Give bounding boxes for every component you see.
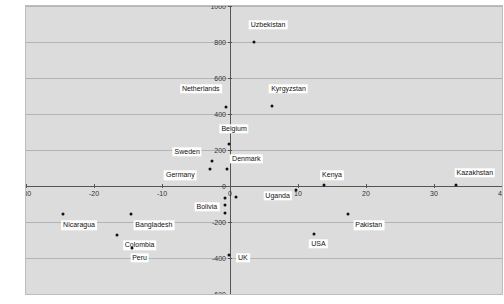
- y-axis-tick-label: 1000: [204, 5, 226, 10]
- data-point: [211, 159, 214, 162]
- data-point: [226, 167, 229, 170]
- y-axis-tick: [228, 186, 232, 187]
- gridline-horizontal: [26, 42, 502, 43]
- y-axis-tick: [228, 42, 232, 43]
- data-point-label: Uganda: [263, 191, 292, 200]
- data-point-label: Kazakhstan: [455, 168, 496, 177]
- y-axis-tick: [228, 6, 232, 7]
- x-axis-tick-label: -30: [25, 190, 31, 197]
- data-point: [62, 212, 65, 215]
- x-axis-tick: [94, 184, 95, 188]
- x-axis-tick-label: 40: [498, 190, 503, 197]
- gridline-horizontal: [26, 258, 502, 259]
- data-point: [130, 212, 133, 215]
- data-point-label: Sweden: [173, 147, 202, 156]
- data-point: [224, 212, 227, 215]
- data-point: [253, 41, 256, 44]
- data-point-label: Bolivia: [195, 202, 220, 211]
- data-point-label: Netherlands: [180, 84, 222, 93]
- x-axis-tick: [502, 184, 503, 188]
- data-point-label: Kenya: [320, 171, 344, 180]
- y-axis-tick: [228, 150, 232, 151]
- x-axis-tick: [162, 184, 163, 188]
- gridline-horizontal: [26, 78, 502, 79]
- data-point: [313, 232, 316, 235]
- y-axis-tick-label: 800: [204, 39, 226, 46]
- y-axis-tick-label: 200: [204, 147, 226, 154]
- x-axis-line: [26, 186, 502, 187]
- y-axis-tick-label: -600: [204, 291, 226, 296]
- y-axis-tick: [228, 114, 232, 115]
- gridline-horizontal: [26, 294, 502, 295]
- x-axis-tick-label: 0: [228, 190, 232, 197]
- y-axis-tick-label: 400: [204, 111, 226, 118]
- y-axis-tick: [228, 78, 232, 79]
- data-point: [235, 195, 238, 198]
- data-point: [224, 203, 227, 206]
- data-point-label: Colombia: [123, 241, 157, 250]
- data-point-label: USA: [309, 239, 327, 248]
- data-point-label: Uzbekistan: [249, 20, 288, 29]
- data-point-label: UK: [236, 253, 250, 262]
- y-axis-tick: [228, 222, 232, 223]
- data-point-label: Belgium: [219, 124, 248, 133]
- data-point-label: Bangladesh: [133, 221, 174, 230]
- data-point: [454, 184, 457, 187]
- x-axis-tick-label: 30: [430, 190, 438, 197]
- gridline-horizontal: [26, 222, 502, 223]
- data-point: [346, 212, 349, 215]
- data-point: [224, 105, 227, 108]
- gridline-horizontal: [26, 114, 502, 115]
- data-point-label: Germany: [164, 171, 197, 180]
- plot-area: -30-20-10010203040-600-400-2000200400600…: [25, 5, 503, 295]
- x-axis-tick-label: -10: [157, 190, 167, 197]
- scatter-chart: Deviation in nurse and midwife density -…: [0, 0, 504, 304]
- data-point-label: Nicaragua: [61, 221, 97, 230]
- y-axis-tick: [228, 258, 232, 259]
- data-point-label: Pakistan: [353, 221, 384, 230]
- data-point: [131, 247, 134, 250]
- data-point: [227, 142, 230, 145]
- y-axis-tick-label: 600: [204, 75, 226, 82]
- y-axis-tick-label: -400: [204, 255, 226, 262]
- data-point: [294, 188, 297, 191]
- data-point-label: Peru: [130, 253, 149, 262]
- x-axis-tick-label: 20: [362, 190, 370, 197]
- x-axis-tick-label: -20: [89, 190, 99, 197]
- gridline-horizontal: [26, 6, 502, 7]
- x-axis-tick: [298, 184, 299, 188]
- data-point: [209, 167, 212, 170]
- data-point: [322, 184, 325, 187]
- data-point: [271, 104, 274, 107]
- y-axis-tick: [228, 294, 232, 295]
- data-point: [116, 233, 119, 236]
- data-point-label: Kyrgyzstan: [269, 84, 308, 93]
- y-axis-tick-label: -200: [204, 219, 226, 226]
- y-axis-tick-label: 0: [204, 183, 226, 190]
- data-point: [224, 196, 227, 199]
- x-axis-tick: [434, 184, 435, 188]
- x-axis-tick: [366, 184, 367, 188]
- gridline-horizontal: [26, 150, 502, 151]
- x-axis-tick: [26, 184, 27, 188]
- data-point: [227, 254, 230, 257]
- data-point-label: Denmark: [230, 154, 262, 163]
